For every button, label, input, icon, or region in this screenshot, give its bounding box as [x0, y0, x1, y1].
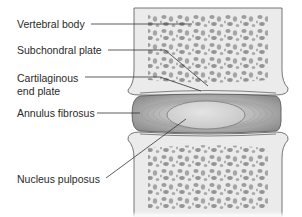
intervertebral-disc-diagram: Vertebral body Subchondral plate Cartila…: [0, 0, 302, 217]
label-cartilaginous-end-plate-line1: Cartilaginous: [17, 72, 78, 84]
label-nucleus-pulposus: Nucleus pulposus: [17, 173, 100, 185]
upper-vertebral-body: [128, 0, 290, 95]
label-annulus-fibrosus: Annulus fibrosus: [17, 107, 95, 119]
label-cartilaginous-end-plate-line2: end plate: [17, 85, 60, 97]
label-subchondral-plate: Subchondral plate: [17, 44, 102, 56]
intervertebral-disc: [132, 94, 281, 133]
label-vertebral-body: Vertebral body: [17, 18, 85, 30]
